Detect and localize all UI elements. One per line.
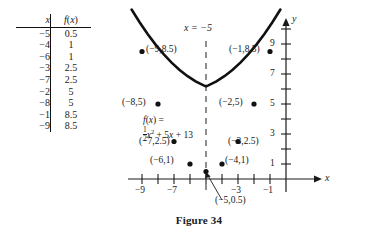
table-row: −85 bbox=[16, 97, 91, 109]
point-label-n3: (−3,2.5) bbox=[228, 137, 259, 147]
cell-x: −5 bbox=[16, 27, 51, 39]
axis-of-symmetry-label: x = −5 bbox=[184, 23, 212, 33]
x-axis bbox=[128, 175, 322, 182]
cell-x: −2 bbox=[16, 86, 51, 98]
figure-caption-text: Figure 34 bbox=[146, 214, 223, 226]
point-marker bbox=[139, 49, 144, 54]
parabola-plot: x y −9 −7 −3 −1 1 3 5 7 9 x = −5 (−9,8.5… bbox=[118, 4, 368, 206]
point-label-n2: (−2,5) bbox=[219, 98, 243, 108]
cell-y: 5 bbox=[51, 86, 92, 98]
table-row: −50.5 bbox=[16, 27, 91, 39]
cell-x: −3 bbox=[16, 62, 51, 74]
table-row: −72.5 bbox=[16, 74, 91, 86]
table-row: −18.5 bbox=[16, 109, 91, 121]
x-axis-label: x bbox=[325, 173, 329, 183]
point-marker bbox=[219, 161, 224, 166]
x-tick-label-m7: −7 bbox=[167, 186, 177, 196]
table-row: −25 bbox=[16, 86, 91, 98]
x-tick-label-m9: −9 bbox=[135, 186, 145, 196]
point-label-n6: (−6,1) bbox=[150, 156, 174, 166]
table-row: −61 bbox=[16, 51, 91, 63]
x-tick-label-m1: −1 bbox=[263, 186, 273, 196]
y-axis-label: y bbox=[292, 14, 296, 24]
formula-line-1: f(x) = bbox=[143, 114, 193, 126]
point-label-n1: (−1,8.5) bbox=[229, 45, 260, 55]
figure-caption: Figure 34 bbox=[0, 214, 368, 226]
header-fx: f(x) bbox=[51, 14, 92, 27]
cell-x: −9 bbox=[16, 120, 51, 132]
cell-y: 8.5 bbox=[51, 120, 92, 132]
y-tick-label-1: 1 bbox=[270, 159, 275, 169]
y-tick-label-9: 9 bbox=[270, 39, 275, 49]
point-label-n8: (−8,5) bbox=[122, 98, 146, 108]
point-marker bbox=[187, 161, 192, 166]
point-label-n4: (−4,1) bbox=[225, 156, 249, 166]
cell-y: 1 bbox=[51, 51, 92, 63]
cell-x: −1 bbox=[16, 109, 51, 121]
point-label-n5: (−5,0.5) bbox=[215, 196, 246, 206]
table: x f(x) −50.5 −41 −61 −32.5 −72.5 −25 −85… bbox=[16, 14, 91, 132]
figure-container: x f(x) −50.5 −41 −61 −32.5 −72.5 −25 −85… bbox=[0, 0, 368, 235]
cell-y: 8.5 bbox=[51, 109, 92, 121]
table-body: −50.5 −41 −61 −32.5 −72.5 −25 −85 −18.5 … bbox=[16, 27, 91, 132]
table-row: −32.5 bbox=[16, 62, 91, 74]
cell-y: 2.5 bbox=[51, 74, 92, 86]
cell-x: −6 bbox=[16, 51, 51, 63]
point-label-n9: (−9,8.5) bbox=[146, 45, 177, 55]
cell-x: −4 bbox=[16, 39, 51, 51]
cell-y: 5 bbox=[51, 97, 92, 109]
header-x: x bbox=[16, 14, 51, 27]
table-row: −98.5 bbox=[16, 120, 91, 132]
cell-y: 2.5 bbox=[51, 62, 92, 74]
point-marker bbox=[155, 101, 160, 106]
table-header-row: x f(x) bbox=[16, 14, 91, 27]
formula-line-2: 12x2 + 5x + 13 bbox=[143, 126, 193, 142]
table-row: −41 bbox=[16, 39, 91, 51]
plot-svg bbox=[118, 4, 368, 206]
point-marker bbox=[267, 49, 272, 54]
value-table: x f(x) −50.5 −41 −61 −32.5 −72.5 −25 −85… bbox=[16, 14, 112, 132]
y-tick-label-3: 3 bbox=[270, 129, 275, 139]
cell-y: 0.5 bbox=[51, 27, 92, 39]
function-formula: f(x) = 12x2 + 5x + 13 bbox=[143, 114, 193, 142]
y-tick-label-5: 5 bbox=[270, 99, 275, 109]
point-marker bbox=[251, 101, 256, 106]
cell-x: −8 bbox=[16, 97, 51, 109]
y-tick-label-7: 7 bbox=[270, 69, 275, 79]
cell-x: −7 bbox=[16, 74, 51, 86]
cell-y: 1 bbox=[51, 39, 92, 51]
